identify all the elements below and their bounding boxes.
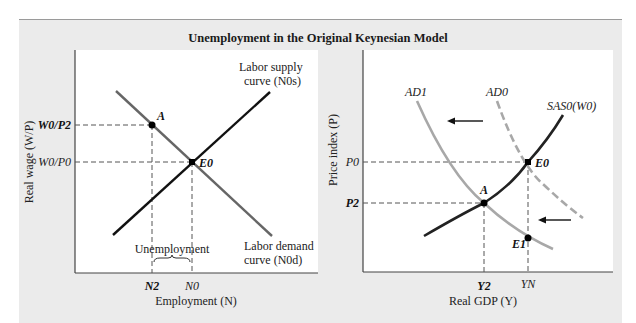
- tick-n2: N2: [144, 279, 160, 293]
- tick-n0: N0: [184, 279, 199, 293]
- tick-y2: Y2: [477, 279, 490, 293]
- point-e0-left: [189, 159, 195, 165]
- left-x-axis-label: Employment (N): [155, 294, 237, 308]
- ad0-label: AD0: [485, 85, 508, 99]
- left-chart: A E0 W0/P2 W0/P0 N2 N0 Labor supply curv…: [22, 50, 318, 308]
- label-a-left: A: [156, 109, 165, 123]
- label-e1-right: E1: [511, 237, 526, 251]
- demand-label-line2: curve (N0d): [244, 253, 302, 267]
- tick-yn: YN: [521, 277, 537, 291]
- tick-w0p2: W0/P2: [38, 118, 71, 132]
- sas-label: SAS0(W0): [547, 99, 596, 113]
- point-a-left: [149, 122, 156, 129]
- label-e0-left: E0: [198, 156, 213, 170]
- supply-label-line1: Labor supply: [239, 60, 303, 74]
- supply-label-line2: curve (N0s): [244, 74, 301, 88]
- right-y-axis-label: Price index (P): [326, 114, 340, 186]
- tick-p2: P2: [346, 196, 359, 210]
- ad1-label: AD1: [404, 85, 427, 99]
- right-plot-area: [363, 50, 613, 272]
- tick-w0p0: W0/P0: [38, 155, 71, 169]
- left-y-axis-label: Real wage (W/P): [22, 121, 36, 204]
- right-chart: E0 A E1 AD1 AD0 SAS0(W0) P0 P2 Y2 YN Rea…: [326, 50, 613, 308]
- point-a-right: [481, 200, 488, 207]
- unemployment-label: Unemployment: [135, 242, 210, 256]
- label-a-right: A: [479, 183, 488, 197]
- label-e0-right: E0: [534, 156, 549, 170]
- tick-p0: P0: [345, 155, 359, 169]
- figure-title: Unemployment in the Original Keynesian M…: [188, 31, 448, 45]
- point-e0-right: [525, 159, 531, 165]
- demand-label-line1: Labor demand: [244, 239, 314, 253]
- right-x-axis-label: Real GDP (Y): [449, 294, 517, 308]
